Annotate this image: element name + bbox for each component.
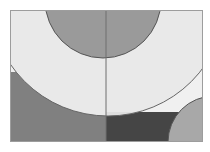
plot-canvas: [0, 0, 210, 152]
figure-container: [0, 0, 210, 152]
